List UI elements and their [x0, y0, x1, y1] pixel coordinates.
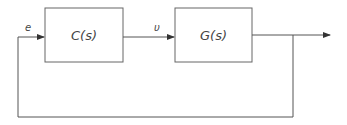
plant-block: G(s)	[175, 8, 252, 62]
error-signal: e	[18, 22, 44, 117]
controller-block: C(s)	[45, 8, 123, 62]
control-label: υ	[154, 22, 160, 33]
block-diagram: C(s) G(s) e υ	[0, 0, 347, 125]
control-signal: υ	[123, 22, 174, 37]
plant-label: G(s)	[200, 28, 227, 43]
error-arrow	[18, 37, 44, 117]
controller-label: C(s)	[71, 28, 97, 43]
error-label: e	[25, 22, 31, 33]
